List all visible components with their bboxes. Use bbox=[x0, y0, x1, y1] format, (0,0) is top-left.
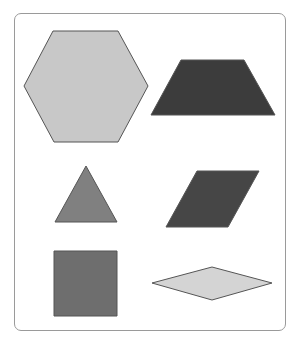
shapes-canvas bbox=[0, 0, 303, 349]
hexagon-shape bbox=[24, 31, 148, 142]
rhombus-shape bbox=[152, 267, 272, 300]
triangle-shape bbox=[55, 166, 117, 222]
trapezoid-shape bbox=[151, 60, 275, 115]
square-shape bbox=[54, 251, 117, 316]
parallelogram-shape bbox=[166, 171, 259, 227]
